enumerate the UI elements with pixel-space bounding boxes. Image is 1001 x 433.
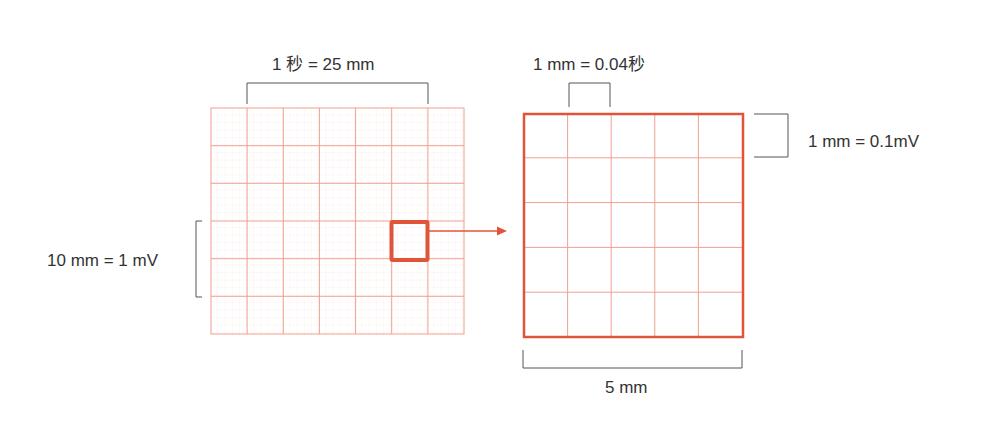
large-grid-time-label: 1 秒 = 25 mm xyxy=(272,50,375,75)
small-grid-voltage-label: 1 mm = 0.1mV xyxy=(808,132,919,152)
small-grid-time-label: 1 mm = 0.04秒 xyxy=(533,50,645,75)
small-grid-width-label: 5 mm xyxy=(605,378,648,398)
large-grid xyxy=(211,108,464,334)
large-grid-voltage-label: 10 mm = 1 mV xyxy=(47,251,158,271)
bracket-top-small xyxy=(569,83,610,107)
bracket-side-small xyxy=(754,114,788,157)
small-grid xyxy=(523,113,743,337)
bracket-bottom-small xyxy=(523,350,742,368)
ecg-grid-diagram xyxy=(0,0,1001,433)
bracket-side-large xyxy=(196,221,202,297)
bracket-top-large xyxy=(247,83,428,104)
